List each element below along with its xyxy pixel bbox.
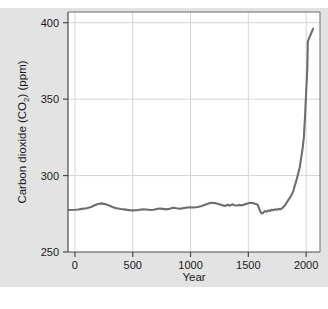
figure-container: 0500100015002000 250300350400 Year Carbo… xyxy=(0,0,328,309)
x-axis-ticks xyxy=(75,252,306,257)
y-axis-ticks xyxy=(63,23,68,252)
y-axis-title: Carbon dioxide (CO2) (ppm) xyxy=(16,60,31,203)
x-tick-label-0: 0 xyxy=(72,259,78,271)
svg-text:Carbon dioxide (CO2) (ppm): Carbon dioxide (CO2) (ppm) xyxy=(16,60,31,203)
x-axis-title: Year xyxy=(182,271,205,283)
x-axis-tick-labels: 0500100015002000 xyxy=(72,259,318,271)
x-tick-label-500: 500 xyxy=(124,259,142,271)
y-axis-tick-labels: 250300350400 xyxy=(41,17,59,258)
plot-area-background xyxy=(68,12,320,252)
y-tick-label-300: 300 xyxy=(41,170,59,182)
x-tick-label-2000: 2000 xyxy=(294,259,318,271)
y-tick-label-250: 250 xyxy=(41,246,59,258)
y-axis-title-main: Carbon dioxide (CO xyxy=(16,102,28,204)
co2-line-chart: 0500100015002000 250300350400 Year Carbo… xyxy=(0,0,328,309)
y-axis-title-tail: ) (ppm) xyxy=(16,60,28,97)
y-tick-label-400: 400 xyxy=(41,17,59,29)
x-tick-label-1500: 1500 xyxy=(236,259,260,271)
y-tick-label-350: 350 xyxy=(41,93,59,105)
x-tick-label-1000: 1000 xyxy=(178,259,202,271)
